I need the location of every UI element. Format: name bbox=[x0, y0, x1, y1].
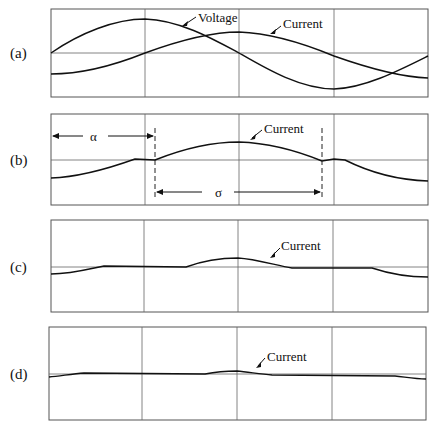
current-label-a: Current bbox=[283, 16, 323, 31]
alpha-label: α bbox=[90, 129, 97, 144]
waveform-diagram: (a) Voltage Current (b) α bbox=[0, 0, 440, 433]
current-waveform bbox=[51, 32, 428, 78]
current-waveform-c bbox=[51, 258, 428, 277]
panel-b: (b) α σ Current bbox=[10, 114, 428, 205]
current-label-b: Current bbox=[264, 121, 304, 136]
voltage-waveform bbox=[51, 19, 428, 89]
current-waveform-b bbox=[51, 142, 428, 181]
panel-label-d: (d) bbox=[10, 366, 28, 383]
panel-label-b: (b) bbox=[10, 152, 28, 169]
current-waveform-d bbox=[49, 371, 426, 379]
voltage-label: Voltage bbox=[198, 10, 238, 25]
panel-a: (a) Voltage Current bbox=[10, 9, 428, 97]
sigma-label: σ bbox=[215, 185, 222, 200]
panel-label-a: (a) bbox=[10, 45, 27, 62]
current-label-d: Current bbox=[267, 349, 307, 364]
panel-b-frame bbox=[51, 114, 428, 205]
current-label-c: Current bbox=[281, 238, 321, 253]
panel-d: (d) Current bbox=[10, 327, 426, 420]
panel-label-c: (c) bbox=[10, 259, 27, 276]
panel-c: (c) Current bbox=[10, 220, 428, 312]
